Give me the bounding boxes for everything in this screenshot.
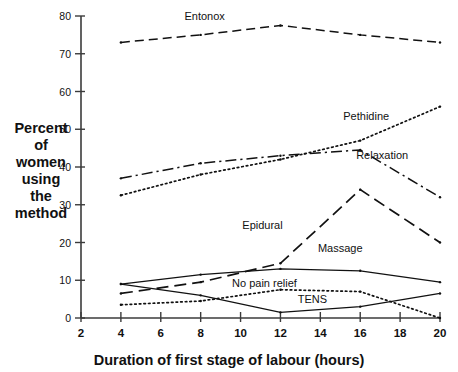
- x-tick-label: 20: [434, 327, 447, 339]
- data-point: [199, 162, 201, 164]
- y-tick-label: 40: [59, 161, 71, 173]
- y-axis-group: 01020304050607080: [59, 10, 85, 324]
- x-axis-title: Duration of first stage of labour (hours…: [94, 352, 365, 368]
- y-tick-label: 50: [59, 123, 71, 135]
- data-point: [120, 304, 122, 306]
- series-label-entonox: Entonox: [184, 10, 225, 22]
- data-point: [439, 41, 441, 43]
- data-point: [439, 281, 441, 283]
- series-line-entonox: [121, 25, 440, 42]
- series-label-massage: Massage: [318, 242, 363, 254]
- x-tick-label: 18: [394, 327, 407, 339]
- data-point: [279, 262, 281, 264]
- x-tick-label: 2: [78, 327, 84, 339]
- data-point: [199, 34, 201, 36]
- data-point: [439, 292, 441, 294]
- y-tick-label: 80: [59, 10, 71, 22]
- data-point: [199, 281, 201, 283]
- data-point: [279, 154, 281, 156]
- x-tick-label: 10: [234, 327, 247, 339]
- data-point: [120, 194, 122, 196]
- data-point: [279, 158, 281, 160]
- series-label-epidural: Epidural: [242, 219, 282, 231]
- data-point: [120, 283, 122, 285]
- y-tick-label: 0: [65, 312, 71, 324]
- x-tick-label: 16: [354, 327, 367, 339]
- series-label-relaxation: Relaxation: [356, 149, 408, 161]
- data-point: [199, 273, 201, 275]
- series-label-pethidine: Pethidine: [343, 110, 389, 122]
- data-point: [439, 105, 441, 107]
- y-axis-title-line: the: [30, 188, 52, 204]
- x-tick-label: 6: [158, 327, 164, 339]
- data-point: [439, 317, 441, 319]
- data-point: [120, 41, 122, 43]
- pain-relief-line-chart: Percentofwomenusingthemethod 01020304050…: [0, 0, 458, 372]
- y-tick-label: 10: [59, 274, 71, 286]
- data-point: [279, 311, 281, 313]
- x-tick-label: 8: [197, 327, 204, 339]
- data-point: [120, 292, 122, 294]
- series-label-tens: TENS: [298, 293, 327, 305]
- series-label-no-pain-relief: No pain relief: [232, 277, 298, 289]
- y-axis-title-line: using: [22, 171, 61, 187]
- series-group: [120, 24, 442, 319]
- y-tick-label: 60: [59, 86, 71, 98]
- y-tick-label: 70: [59, 48, 71, 60]
- data-point: [359, 139, 361, 141]
- x-tick-label: 12: [274, 327, 287, 339]
- data-point: [199, 294, 201, 296]
- data-point: [199, 300, 201, 302]
- series-labels-group: EntonoxPethidineRelaxationEpiduralMassag…: [184, 10, 408, 305]
- x-tick-label: 14: [314, 327, 327, 339]
- data-point: [359, 188, 361, 190]
- data-point: [120, 177, 122, 179]
- data-point: [359, 270, 361, 272]
- y-tick-label: 30: [59, 199, 71, 211]
- chart-canvas: Percentofwomenusingthemethod 01020304050…: [0, 0, 458, 372]
- data-point: [279, 268, 281, 270]
- x-tick-label: 4: [118, 327, 125, 339]
- data-point: [359, 305, 361, 307]
- data-point: [279, 24, 281, 26]
- data-point: [359, 290, 361, 292]
- y-axis-title-line: of: [34, 137, 48, 153]
- data-point: [199, 173, 201, 175]
- data-point: [359, 34, 361, 36]
- data-point: [439, 241, 441, 243]
- data-point: [439, 196, 441, 198]
- x-axis-group: 2468101214161820: [78, 312, 447, 339]
- y-tick-label: 20: [59, 237, 71, 249]
